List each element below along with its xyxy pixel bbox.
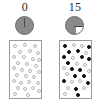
dot-open	[75, 62, 79, 66]
dot-field-right	[59, 40, 92, 99]
dot-open	[72, 43, 76, 47]
dial-wrap-right	[50, 16, 100, 36]
dot-open	[20, 68, 24, 72]
dial-wrap-left	[0, 16, 50, 36]
panel-left: 0	[0, 0, 50, 106]
dot-open	[31, 86, 35, 90]
dot-open	[71, 56, 75, 60]
dot-open	[80, 44, 84, 48]
dot-open	[66, 86, 70, 90]
dot-filled	[62, 79, 66, 83]
dot-filled	[70, 67, 74, 71]
dot-open	[19, 81, 23, 85]
dot-filled	[67, 50, 71, 54]
dot-open	[37, 89, 41, 93]
pie-hand	[24, 18, 25, 27]
panel-right: 15	[50, 0, 100, 106]
dot-open	[82, 86, 86, 90]
dot-open	[34, 64, 38, 68]
dot-filled	[78, 68, 82, 72]
dot-filled	[63, 44, 67, 48]
dot-open	[28, 49, 32, 53]
dot-open	[78, 79, 82, 83]
dot-open	[65, 72, 69, 76]
dot-open	[16, 86, 20, 90]
dot-open	[16, 61, 20, 65]
dot-open	[24, 74, 28, 78]
dot-filled	[76, 93, 80, 97]
dot-filled	[80, 55, 84, 59]
dot-open	[33, 44, 37, 48]
dot-open	[36, 81, 40, 85]
dot-filled	[74, 87, 78, 91]
dot-filled	[87, 57, 91, 61]
dot-filled	[66, 61, 70, 65]
dot-open	[25, 62, 29, 66]
dot-open	[63, 92, 67, 96]
dot-filled	[87, 45, 91, 49]
dot-open	[13, 44, 17, 48]
dot-open	[15, 73, 19, 77]
pie-clock-icon	[65, 16, 84, 35]
dot-filled	[73, 74, 77, 78]
dot-open	[70, 80, 74, 84]
dot-field-left	[9, 40, 42, 99]
dot-open	[62, 66, 66, 70]
dot-open	[26, 93, 30, 97]
dot-open	[12, 79, 16, 83]
dot-filled	[82, 74, 86, 78]
dot-open	[27, 80, 31, 84]
dot-open	[84, 51, 88, 55]
count-label-left: 0	[0, 1, 50, 14]
dot-open	[23, 43, 27, 47]
figure-canvas: 0 15	[0, 0, 100, 106]
pie-clock-icon	[15, 16, 34, 35]
dot-open	[22, 55, 26, 59]
dot-open	[37, 58, 41, 62]
dot-open	[12, 66, 16, 70]
dot-filled	[76, 49, 80, 53]
dot-open	[28, 69, 32, 73]
dot-open	[23, 87, 27, 91]
dot-open	[83, 63, 87, 67]
pie-hand	[75, 26, 84, 27]
dot-open	[18, 50, 22, 54]
dot-open	[37, 70, 41, 74]
dot-open	[13, 92, 17, 96]
dot-open	[12, 55, 16, 59]
count-label-right: 15	[50, 1, 100, 14]
dot-open	[36, 51, 40, 55]
dot-open	[87, 69, 91, 73]
dot-open	[31, 57, 35, 61]
dot-filled	[62, 55, 66, 59]
dot-filled	[86, 81, 90, 85]
dot-open	[32, 75, 36, 79]
